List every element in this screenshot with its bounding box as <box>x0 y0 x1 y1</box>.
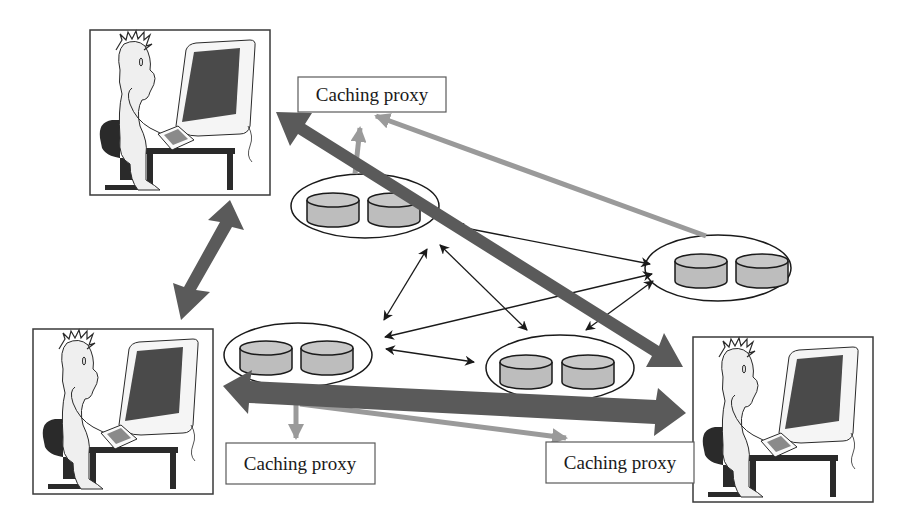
proxy-label: Caching proxy <box>244 453 357 474</box>
disk-icon <box>307 193 359 227</box>
user-workstation-top-left <box>90 30 270 195</box>
disk-icon <box>301 341 353 375</box>
caching-proxy-network-diagram: Caching proxy Caching proxy Caching prox… <box>0 0 903 526</box>
proxy-label: Caching proxy <box>316 84 429 105</box>
caching-proxy-bottom-right: Caching proxy <box>546 442 694 483</box>
user-workstation-bottom-right <box>693 337 873 502</box>
caching-proxy-bottom-left: Caching proxy <box>226 443 375 484</box>
double-arrow-icon <box>173 200 244 320</box>
user-workstation-bottom-left <box>33 329 213 494</box>
disk-icon <box>500 355 552 389</box>
server-cluster-b <box>645 235 791 301</box>
disk-icon <box>736 254 788 288</box>
caching-proxy-top: Caching proxy <box>298 77 446 112</box>
disk-icon <box>562 355 614 389</box>
disk-icon <box>240 341 292 375</box>
proxy-label: Caching proxy <box>564 452 677 473</box>
server-cluster-d <box>486 335 634 401</box>
disk-icon <box>675 254 727 288</box>
